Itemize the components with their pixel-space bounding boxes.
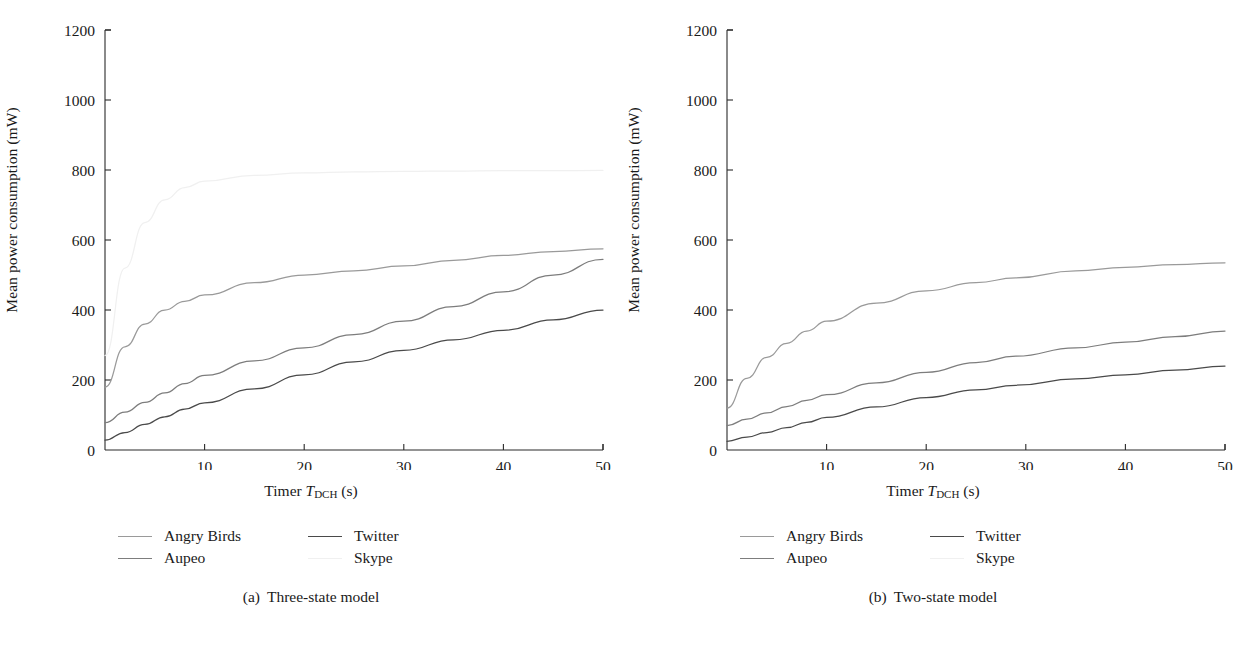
- plot-area-b: 0200400600800100012001020304050: [622, 0, 1244, 470]
- xlabel-unit-a: (s): [337, 482, 357, 499]
- legend-item-skype-a[interactable]: Skype: [308, 549, 498, 567]
- svg-text:30: 30: [396, 458, 412, 470]
- legend-item-skype-b[interactable]: Skype: [930, 549, 1120, 567]
- figure-two-panel-chart: Mean power consumption (mW) 020040060080…: [0, 0, 1244, 648]
- svg-text:1200: 1200: [64, 22, 95, 39]
- chart-svg-b: 0200400600800100012001020304050: [622, 0, 1244, 470]
- legend-a: Angry Birds Twitter Aupeo Skype: [118, 525, 498, 569]
- legend-swatch-line-icon: [740, 536, 774, 537]
- legend-label: Skype: [976, 549, 1015, 567]
- xlabel-unit-b: (s): [959, 482, 979, 499]
- legend-row: Angry Birds Twitter: [740, 525, 1120, 547]
- legend-item-aupeo-b[interactable]: Aupeo: [740, 549, 930, 567]
- legend-label: Twitter: [354, 527, 399, 545]
- x-axis-label-b: Timer TDCH (s): [622, 482, 1244, 500]
- legend-row: Aupeo Skype: [118, 547, 498, 569]
- legend-row: Aupeo Skype: [740, 547, 1120, 569]
- svg-text:400: 400: [72, 302, 96, 319]
- legend-swatch-line-icon: [930, 558, 964, 559]
- svg-text:400: 400: [694, 302, 718, 319]
- svg-text:0: 0: [87, 442, 95, 459]
- legend-b: Angry Birds Twitter Aupeo Skype: [740, 525, 1120, 569]
- legend-swatch-line-icon: [308, 558, 342, 559]
- svg-text:200: 200: [72, 372, 96, 389]
- caption-tag: (a): [243, 588, 260, 605]
- xlabel-subscript-b: DCH: [936, 488, 959, 500]
- x-axis-label-a: Timer TDCH (s): [0, 482, 622, 500]
- svg-text:20: 20: [918, 458, 934, 470]
- legend-label: Twitter: [976, 527, 1021, 545]
- xlabel-prefix-b: Timer: [886, 482, 927, 499]
- legend-item-aupeo-a[interactable]: Aupeo: [118, 549, 308, 567]
- caption-tag: (b): [869, 588, 887, 605]
- svg-text:800: 800: [72, 162, 96, 179]
- xlabel-prefix-a: Timer: [264, 482, 305, 499]
- panel-caption-a: (a)Three-state model: [0, 588, 622, 606]
- legend-swatch-line-icon: [740, 558, 774, 559]
- svg-text:1000: 1000: [686, 92, 717, 109]
- panel-two-state: Mean power consumption (mW) 020040060080…: [622, 0, 1244, 648]
- legend-label: Aupeo: [786, 549, 827, 567]
- xlabel-subscript-a: DCH: [314, 488, 337, 500]
- legend-label: Aupeo: [164, 549, 205, 567]
- svg-text:10: 10: [819, 458, 835, 470]
- svg-text:600: 600: [694, 232, 718, 249]
- svg-text:50: 50: [1217, 458, 1233, 470]
- legend-item-twitter-b[interactable]: Twitter: [930, 527, 1120, 545]
- chart-svg-a: 0200400600800100012001020304050: [0, 0, 622, 470]
- xlabel-symbol-b: T: [928, 482, 937, 499]
- svg-text:1200: 1200: [686, 22, 717, 39]
- svg-text:30: 30: [1018, 458, 1034, 470]
- svg-text:0: 0: [709, 442, 717, 459]
- xlabel-symbol-a: T: [306, 482, 315, 499]
- plot-area-a: 0200400600800100012001020304050: [0, 0, 622, 470]
- legend-item-angry-birds-b[interactable]: Angry Birds: [740, 527, 930, 545]
- legend-label: Angry Birds: [164, 527, 241, 545]
- caption-text: Three-state model: [267, 588, 379, 605]
- legend-label: Skype: [354, 549, 393, 567]
- legend-row: Angry Birds Twitter: [118, 525, 498, 547]
- svg-text:40: 40: [1118, 458, 1134, 470]
- legend-swatch-line-icon: [118, 536, 152, 537]
- legend-label: Angry Birds: [786, 527, 863, 545]
- svg-text:20: 20: [296, 458, 312, 470]
- svg-text:10: 10: [197, 458, 213, 470]
- legend-item-twitter-a[interactable]: Twitter: [308, 527, 498, 545]
- panel-three-state: Mean power consumption (mW) 020040060080…: [0, 0, 622, 648]
- legend-swatch-line-icon: [930, 536, 964, 537]
- svg-text:600: 600: [72, 232, 96, 249]
- svg-text:200: 200: [694, 372, 718, 389]
- svg-text:40: 40: [496, 458, 512, 470]
- legend-swatch-line-icon: [118, 558, 152, 559]
- svg-text:800: 800: [694, 162, 718, 179]
- caption-text: Two-state model: [894, 588, 998, 605]
- svg-text:1000: 1000: [64, 92, 95, 109]
- svg-text:50: 50: [595, 458, 611, 470]
- panel-caption-b: (b)Two-state model: [622, 588, 1244, 606]
- legend-swatch-line-icon: [308, 536, 342, 537]
- legend-item-angry-birds-a[interactable]: Angry Birds: [118, 527, 308, 545]
